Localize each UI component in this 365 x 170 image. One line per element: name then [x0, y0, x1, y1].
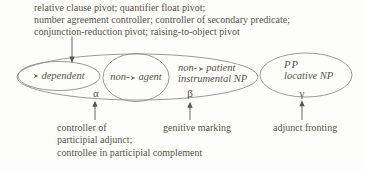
non-patient-label: non-patient instrumental NP — [178, 62, 247, 84]
alpha-annotation-line: controllee in participial complement — [57, 147, 202, 159]
non-patient-label-line2: instrumental NP — [178, 73, 247, 84]
non-patient-label-text: patient — [206, 62, 235, 73]
gamma-arrowhead-icon — [299, 100, 304, 106]
beta-arrowhead-icon — [187, 102, 192, 108]
non-agent-label: non-agent — [103, 71, 169, 82]
top-annotation-line: number agreement controller; controller … — [34, 14, 290, 26]
gamma-annotation: adjunct fronting — [273, 122, 337, 134]
linguistic-roles-diagram: relative clause pivot; quantifier float … — [0, 0, 365, 170]
pp-label-line2: locative NP — [284, 70, 333, 82]
non-agent-label-text: agent — [138, 71, 161, 82]
beta-marker: β — [184, 87, 196, 99]
alpha-arrowhead-icon — [92, 101, 97, 107]
non-patient-label-prefix: non- — [178, 62, 197, 73]
role-pointer-icon — [33, 73, 39, 79]
non-patient-label-line1: non-patient — [178, 62, 247, 73]
non-agent-label-prefix: non- — [110, 71, 129, 82]
top-annotation-line: conjunction-reduction pivot; raising-to-… — [34, 26, 290, 38]
top-annotation: relative clause pivot; quantifier float … — [34, 2, 290, 39]
gamma-marker: γ — [296, 87, 308, 99]
alpha-annotation-line: participial adjunct; — [57, 134, 202, 146]
top-annotation-line: relative clause pivot; quantifier float … — [34, 2, 290, 14]
role-pointer-icon — [198, 66, 204, 72]
dependent-label-text: dependent — [41, 70, 84, 81]
pp-label-line1: PP — [284, 59, 333, 71]
role-pointer-icon — [130, 75, 136, 81]
beta-annotation: genitive marking — [163, 122, 231, 134]
dependent-label: dependent — [18, 70, 100, 81]
pp-locative-label: PP locative NP — [284, 59, 333, 82]
alpha-marker: α — [90, 87, 102, 99]
